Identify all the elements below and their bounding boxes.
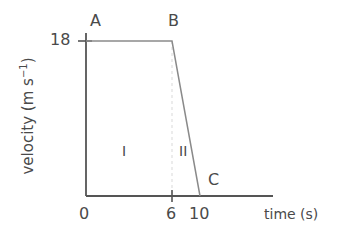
region-label-one: I (122, 144, 126, 158)
y-axis-tick-label-18: 18 (50, 32, 70, 48)
velocity-time-graph-figure: velocity (m s−1) 18 0 6 10 time (s) A B … (0, 0, 342, 244)
x-axis-tick-label-6: 6 (166, 206, 176, 222)
y-axis-title-exponent: −1 (18, 63, 29, 78)
x-axis-tick-label-10: 10 (189, 206, 209, 222)
x-axis-title: time (s) (264, 207, 318, 221)
data-point-label-a: A (90, 13, 101, 29)
x-axis-tick-label-0: 0 (79, 206, 89, 222)
y-axis-title: velocity (m s−1) (16, 36, 40, 196)
y-axis-title-base: velocity (m s (19, 78, 37, 174)
data-point-label-c: C (208, 172, 219, 188)
data-point-label-b: B (168, 13, 179, 29)
y-axis-title-tail: ) (19, 57, 37, 63)
region-label-two: II (179, 144, 187, 158)
velocity-data-line (86, 41, 200, 196)
